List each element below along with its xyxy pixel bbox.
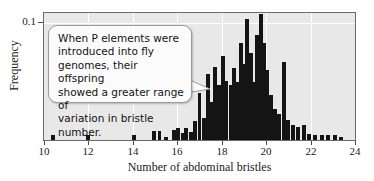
histogram-bar	[273, 109, 277, 140]
histogram-figure: 0.1 Frequency 1012141618202224 Number of…	[0, 0, 374, 181]
histogram-bar	[339, 137, 343, 140]
x-axis-tick-label: 18	[207, 145, 237, 157]
histogram-bar	[224, 81, 228, 140]
callout-box: When P elements were introduced into fly…	[48, 25, 192, 103]
histogram-bar	[296, 127, 300, 140]
histogram-bar	[286, 120, 290, 140]
histogram-bar	[202, 118, 206, 140]
histogram-bar	[269, 95, 273, 140]
histogram-bar	[198, 93, 202, 140]
x-axis-tick-label: 20	[251, 145, 281, 157]
callout-line-3: genomes, their offspring	[58, 59, 184, 86]
histogram-bar	[326, 135, 330, 140]
histogram-bar	[320, 135, 324, 140]
histogram-bar	[193, 121, 197, 140]
y-axis-title: Frequency	[7, 21, 22, 111]
callout-pointer-icon	[190, 78, 212, 98]
histogram-bar	[189, 132, 193, 140]
callout-line-5: variation in bristle number.	[58, 112, 184, 139]
histogram-bar	[313, 135, 317, 140]
x-axis-tick-label: 22	[296, 145, 326, 157]
x-axis-tick-label: 16	[162, 145, 192, 157]
x-axis-tick-label: 12	[73, 145, 103, 157]
histogram-bar	[333, 135, 337, 140]
callout-line-1: When P elements were	[58, 32, 184, 45]
histogram-bar	[282, 62, 286, 140]
histogram-bar	[184, 128, 188, 140]
histogram-bar	[213, 67, 217, 140]
x-axis-tick-label: 24	[340, 145, 370, 157]
callout-line-4: showed a greater range of	[58, 86, 184, 113]
x-axis-title: Number of abdominal bristles	[43, 160, 356, 175]
callout-line-2: introduced into fly	[58, 45, 184, 58]
histogram-bar	[291, 125, 295, 140]
histogram-bar	[302, 125, 306, 140]
x-axis-tick-label: 14	[118, 145, 148, 157]
histogram-bar	[51, 135, 55, 140]
histogram-bar	[307, 134, 311, 140]
x-axis-tick-label: 10	[29, 145, 59, 157]
histogram-bar	[277, 114, 281, 140]
callout-text: When P elements were introduced into fly…	[58, 32, 184, 139]
